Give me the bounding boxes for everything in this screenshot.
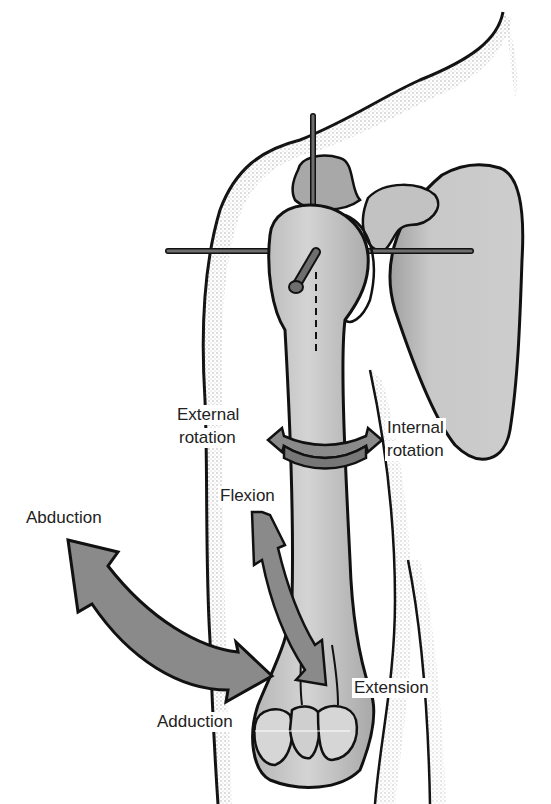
label-abduction: Abduction: [24, 508, 104, 528]
label-flexion: Flexion: [218, 486, 277, 506]
label-internal-rotation-2: rotation: [385, 441, 446, 461]
label-adduction: Adduction: [155, 712, 235, 732]
label-extension: Extension: [352, 678, 431, 698]
label-external-rotation-2: rotation: [177, 428, 238, 448]
abduction-adduction-arrow: [68, 540, 272, 702]
shoulder-motion-diagram: External rotation Internal rotation Flex…: [0, 0, 551, 804]
diagram-canvas: [0, 0, 551, 804]
label-internal-rotation-1: Internal: [385, 418, 446, 438]
label-external-rotation-1: External: [175, 405, 241, 425]
